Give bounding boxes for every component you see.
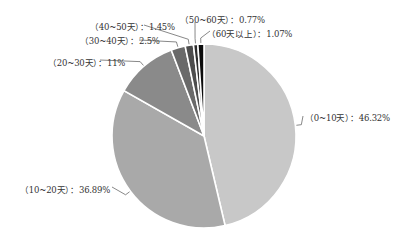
label-40-50: （40~50天）：1.45%: [90, 20, 175, 32]
label-10-20: （10~20天）：36.89%: [20, 183, 110, 195]
label-20-30: （20~30天）：11%: [48, 56, 125, 68]
label-60-plus: （60天以上）：1.07%: [207, 27, 292, 39]
pie-slices: [112, 44, 296, 228]
label-50-60: （50~60天）：0.77%: [180, 13, 265, 25]
label-30-40: （30~40天）：2.5%: [80, 34, 160, 46]
leader-line-0: [296, 116, 303, 125]
label-0-10: （0~10天）：46.32%: [305, 111, 390, 123]
leader-line-5: [195, 22, 196, 43]
leader-line-1: [112, 187, 130, 195]
